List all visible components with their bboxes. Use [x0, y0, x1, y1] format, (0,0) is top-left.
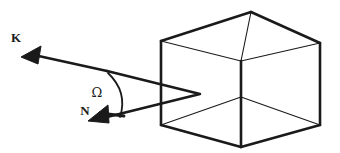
- cube-edge-top-back-right: [251, 12, 320, 43]
- cube-edge-top-left-back: [161, 12, 251, 41]
- omega-arc-path: [108, 73, 122, 117]
- cube-outer-edges: [161, 12, 320, 147]
- cube-edge-innerbottom-to-backbottomright: [241, 97, 320, 125]
- cube-wireframe: [161, 12, 320, 147]
- k-vector-label: K: [11, 30, 22, 45]
- cube-edge-bottom-front-right: [241, 125, 320, 147]
- cube-edge-inner-top-to-backtopright: [241, 43, 320, 61]
- n-vector-label: N: [80, 103, 90, 118]
- cube-edge-bottom-left-front: [161, 125, 241, 147]
- k-vector-shaft: [34, 55, 107, 71]
- cube-edge-inner-top-to-fronttopleft: [161, 41, 241, 61]
- n-vector-arrowhead: [88, 105, 109, 123]
- k-vector-arrowhead: [21, 46, 41, 64]
- cube-edge-inner-top-to-backtopleft: [241, 12, 251, 61]
- figure-container: K Ω N: [0, 0, 340, 153]
- k-vector-arrow: [21, 46, 107, 71]
- omega-angle-arc: [108, 73, 122, 117]
- diagram-canvas: K Ω N: [0, 0, 340, 153]
- n-vector-arrow: [88, 105, 124, 123]
- omega-angle-label: Ω: [92, 85, 103, 100]
